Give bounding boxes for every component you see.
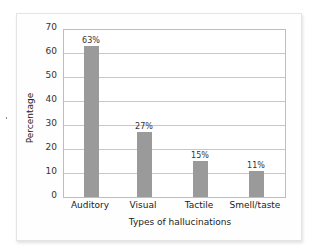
- y-tick-label: 0: [41, 190, 57, 200]
- plot-area: 63%27%15%11%: [63, 29, 286, 198]
- bar-auditory: [84, 46, 99, 197]
- bar-tactile: [193, 161, 208, 197]
- y-tick-label: 30: [41, 118, 57, 128]
- data-label: 11%: [236, 161, 276, 170]
- data-label: 63%: [71, 36, 111, 45]
- y-tick-label: 70: [41, 22, 57, 32]
- x-axis-label: Types of hallucinations: [100, 217, 260, 227]
- y-axis-label: Percentage: [25, 83, 35, 153]
- stray-mark: [6, 117, 7, 119]
- y-tick-label: 40: [41, 94, 57, 104]
- y-tick-label: 10: [41, 166, 57, 176]
- data-label: 27%: [124, 122, 164, 131]
- x-tick-label: Visual: [113, 200, 173, 210]
- x-tick-label: Tactile: [169, 200, 229, 210]
- y-tick-label: 20: [41, 142, 57, 152]
- x-tick-label: Smell/taste: [225, 200, 285, 210]
- y-tick-label: 50: [41, 70, 57, 80]
- bar-visual: [137, 132, 152, 197]
- data-label: 15%: [180, 151, 220, 160]
- bar-smell-taste: [249, 171, 264, 197]
- y-tick-label: 60: [41, 46, 57, 56]
- x-tick-label: Auditory: [60, 200, 120, 210]
